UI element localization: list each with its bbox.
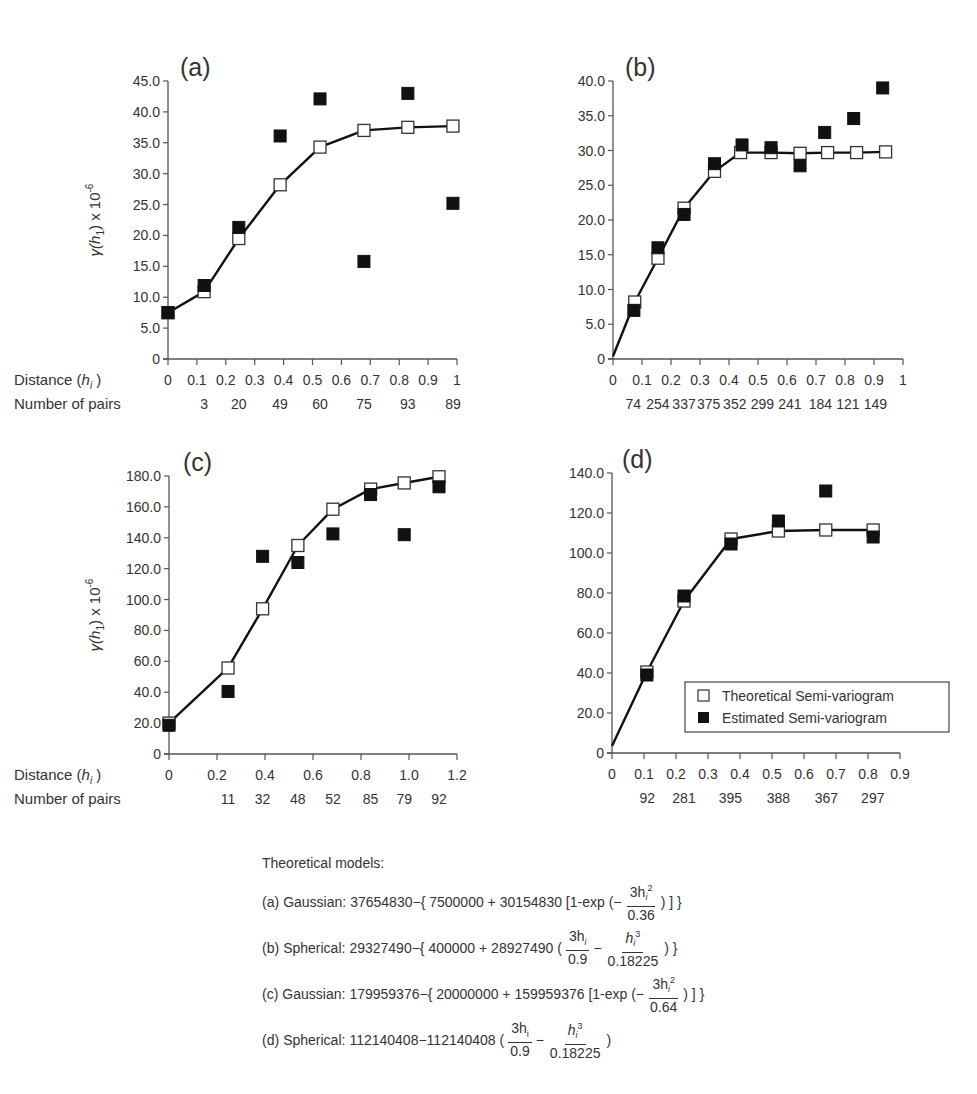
y-tick-label: 30.0 bbox=[578, 143, 605, 159]
x-tick-label: 0.6 bbox=[303, 767, 323, 783]
estimated-point bbox=[163, 719, 175, 731]
estimated-point bbox=[274, 130, 286, 142]
pairs-count: 121 bbox=[836, 396, 860, 412]
chart-panel-a: (a)05.010.015.020.025.030.035.040.045.00… bbox=[14, 53, 461, 412]
chart-panel-c: (c)020.040.060.080.0100.0120.0140.0160.0… bbox=[14, 448, 467, 807]
legend-theoretical-label: Theoretical Semi-variogram bbox=[722, 688, 894, 704]
estimated-point bbox=[794, 160, 806, 172]
chart-panel-b: (b)05.010.015.020.025.030.035.040.000.10… bbox=[578, 53, 907, 412]
x-tick-label: 0.3 bbox=[245, 372, 265, 388]
theoretical-point bbox=[233, 233, 245, 245]
x-tick-label: 0.6 bbox=[777, 372, 797, 388]
estimated-point bbox=[877, 82, 889, 94]
legend-estimated-label: Estimated Semi-variogram bbox=[722, 710, 887, 726]
x-tick-label: 0.5 bbox=[762, 766, 782, 782]
pairs-count: 92 bbox=[431, 791, 447, 807]
theoretical-point bbox=[880, 146, 892, 158]
pairs-count: 60 bbox=[312, 396, 328, 412]
x-tick-label: 0.3 bbox=[698, 766, 718, 782]
estimated-point bbox=[365, 489, 377, 501]
x-tick-label: 0.7 bbox=[361, 372, 381, 388]
x-tick-label: 0 bbox=[165, 767, 173, 783]
theoretical-point bbox=[292, 540, 304, 552]
x-tick-label: 0 bbox=[609, 372, 617, 388]
y-tick-label: 80.0 bbox=[134, 622, 161, 638]
panel-title: (b) bbox=[625, 53, 656, 81]
x-tick-label: 0.2 bbox=[216, 372, 236, 388]
model-b: (b) Spherical: 29327490−{ 400000 + 28927… bbox=[262, 925, 704, 971]
y-tick-label: 40.0 bbox=[134, 684, 161, 700]
estimated-point bbox=[641, 669, 653, 681]
pairs-label: Number of pairs bbox=[14, 395, 121, 412]
y-tick-label: 45.0 bbox=[133, 73, 160, 89]
y-axis-label: γ(h1) x 10-6 bbox=[84, 578, 106, 651]
y-tick-label: 20.0 bbox=[133, 227, 160, 243]
estimated-point bbox=[628, 304, 640, 316]
pairs-count: 3 bbox=[200, 396, 208, 412]
theoretical-line bbox=[169, 477, 439, 723]
theoretical-point bbox=[447, 120, 459, 132]
y-tick-label: 5.0 bbox=[586, 316, 606, 332]
y-tick-label: 180.0 bbox=[126, 468, 161, 484]
x-tick-label: 0 bbox=[164, 372, 172, 388]
x-tick-label: 0.9 bbox=[418, 372, 438, 388]
theoretical-point bbox=[794, 147, 806, 159]
y-tick-label: 20.0 bbox=[577, 705, 604, 721]
estimated-point bbox=[848, 113, 860, 125]
y-tick-label: 40.0 bbox=[133, 104, 160, 120]
fraction: hi3 0.18225 bbox=[547, 1018, 604, 1062]
pairs-count: 20 bbox=[231, 396, 247, 412]
distance-label: Distance (hi ) bbox=[14, 766, 101, 786]
y-tick-label: 0 bbox=[596, 745, 604, 761]
theoretical-point bbox=[398, 477, 410, 489]
fraction: hi3 0.18225 bbox=[605, 926, 662, 970]
pairs-count: 337 bbox=[672, 396, 696, 412]
estimated-point bbox=[447, 197, 459, 209]
y-tick-label: 60.0 bbox=[577, 625, 604, 641]
theoretical-models: Theoretical models: (a) Gaussian: 376548… bbox=[262, 855, 704, 1063]
estimated-point bbox=[292, 556, 304, 568]
panel-title: (d) bbox=[622, 445, 653, 473]
pairs-count: 395 bbox=[719, 790, 743, 806]
x-tick-label: 0.6 bbox=[794, 766, 814, 782]
estimated-point bbox=[398, 529, 410, 541]
theoretical-point bbox=[222, 662, 234, 674]
theoretical-point bbox=[820, 524, 832, 536]
y-tick-label: 20.0 bbox=[134, 715, 161, 731]
x-tick-label: 0.2 bbox=[666, 766, 686, 782]
model-c: (c) Gaussian: 179959376−{ 20000000 + 159… bbox=[262, 971, 704, 1017]
estimated-point bbox=[765, 142, 777, 154]
x-tick-label: 0.2 bbox=[207, 767, 227, 783]
estimated-point bbox=[652, 242, 664, 254]
y-tick-label: 100.0 bbox=[126, 592, 161, 608]
pairs-count: 89 bbox=[445, 396, 461, 412]
y-tick-label: 5.0 bbox=[141, 320, 161, 336]
x-tick-label: 0.8 bbox=[858, 766, 878, 782]
y-tick-label: 10.0 bbox=[578, 282, 605, 298]
x-tick-label: 1.2 bbox=[447, 767, 467, 783]
pairs-count: 184 bbox=[809, 396, 833, 412]
model-d: (d) Spherical: 112140408−112140408 ( 3hi… bbox=[262, 1017, 704, 1063]
x-tick-label: 0.7 bbox=[806, 372, 826, 388]
estimated-point bbox=[233, 221, 245, 233]
x-tick-label: 0.5 bbox=[303, 372, 323, 388]
theoretical-point bbox=[314, 141, 326, 153]
estimated-point bbox=[402, 87, 414, 99]
pairs-count: 388 bbox=[767, 790, 791, 806]
y-tick-label: 120.0 bbox=[569, 505, 604, 521]
x-tick-label: 0.4 bbox=[255, 767, 275, 783]
x-tick-label: 1 bbox=[453, 372, 461, 388]
y-tick-label: 35.0 bbox=[133, 135, 160, 151]
y-tick-label: 0 bbox=[152, 351, 160, 367]
estimated-point bbox=[736, 139, 748, 151]
estimated-point bbox=[819, 126, 831, 138]
theoretical-point bbox=[257, 603, 269, 615]
y-tick-label: 10.0 bbox=[133, 289, 160, 305]
y-tick-label: 60.0 bbox=[134, 653, 161, 669]
panel-title: (c) bbox=[183, 448, 212, 476]
y-tick-label: 15.0 bbox=[133, 258, 160, 274]
pairs-count: 75 bbox=[356, 396, 372, 412]
legend-theoretical-icon bbox=[698, 690, 709, 701]
y-tick-label: 40.0 bbox=[577, 665, 604, 681]
estimated-point bbox=[327, 528, 339, 540]
